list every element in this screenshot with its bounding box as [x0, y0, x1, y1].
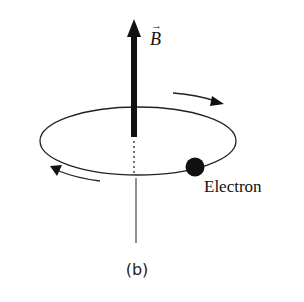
- rotation-arrow-bottom-left: [59, 171, 100, 181]
- rotation-arrowhead-bottom-left-icon: [50, 165, 62, 176]
- rotation-arrow-top-right: [173, 93, 215, 101]
- rotation-arrowhead-top-right-icon: [210, 96, 224, 106]
- field-dotted-segment: [133, 141, 135, 173]
- field-arrow-head-icon: [127, 19, 141, 37]
- orbit-ellipse: [40, 107, 236, 175]
- field-arrow-shaft: [131, 34, 137, 137]
- magnetic-field-orbit-diagram: → B Electron (b): [0, 0, 304, 302]
- panel-label: (b): [126, 260, 149, 279]
- field-label: B: [150, 29, 161, 49]
- electron-dot: [186, 158, 205, 177]
- electron-label: Electron: [204, 177, 262, 196]
